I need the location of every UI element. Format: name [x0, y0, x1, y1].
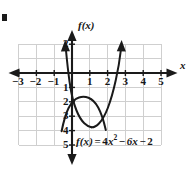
x-tick-label-5: 5 [158, 76, 164, 87]
x-tick-label-2: 2 [105, 76, 111, 87]
equation-minus-2: − [139, 135, 145, 147]
parabola-curve [61, 40, 126, 131]
x-tick-label--2: −2 [30, 76, 42, 87]
equation-term1-exponent: 2 [113, 133, 117, 142]
x-tick-label-4: 4 [140, 76, 146, 87]
curve-right-arrow-icon [117, 40, 126, 51]
y-tick-label--3: 3 [63, 110, 69, 121]
x-tick-label-1: 1 [87, 76, 93, 87]
equation-term2: 6x [127, 135, 138, 147]
x-axis-right-arrow-icon [167, 68, 178, 77]
y-tick-label--5: 5 [63, 139, 69, 150]
equation-fx: f(x) [76, 135, 93, 147]
y-tick-label--2: 2 [63, 96, 69, 107]
y-tick-label--4: 4 [63, 125, 69, 136]
equation-equals: = [94, 135, 100, 147]
x-tick-label--1: −1 [48, 76, 60, 87]
grid-lines [19, 44, 161, 145]
y-tick-label-2: 2 [63, 38, 69, 49]
x-axis-label: x [180, 60, 186, 71]
y-tick-label--1: 1 [63, 82, 69, 93]
figure-canvas: f(x) x −3 −2 −1 1 2 3 4 5 2 1 2 3 4 5 f(… [0, 0, 193, 170]
x-tick-label--3: −3 [12, 76, 24, 87]
y-axis-down-arrow-icon [67, 154, 76, 165]
equation-minus-1: − [119, 135, 125, 147]
x-tick-label-3: 3 [123, 76, 129, 87]
equation-annotation: f(x)=4x2−6x−2 [76, 136, 153, 147]
equation-term3: 2 [147, 135, 153, 147]
y-axis-label: f(x) [78, 20, 95, 31]
